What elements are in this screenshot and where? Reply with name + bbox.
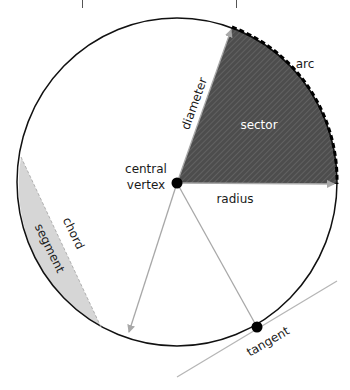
chord-label: chord <box>60 215 87 252</box>
central-vertex-label-line1: central <box>125 162 167 176</box>
lower-radius-arrow <box>129 183 177 332</box>
arc-label: arc <box>296 57 315 71</box>
tangent-label: tangent <box>244 324 292 360</box>
segment-region <box>19 157 101 327</box>
radius-label: radius <box>216 192 253 206</box>
tangent-point <box>252 322 263 333</box>
central-vertex-label-line2: vertex <box>127 178 165 192</box>
sector-label: sector <box>240 118 277 132</box>
circle-parts-diagram: arc sector diameter radius central verte… <box>0 0 350 390</box>
central-vertex-point <box>172 178 183 189</box>
